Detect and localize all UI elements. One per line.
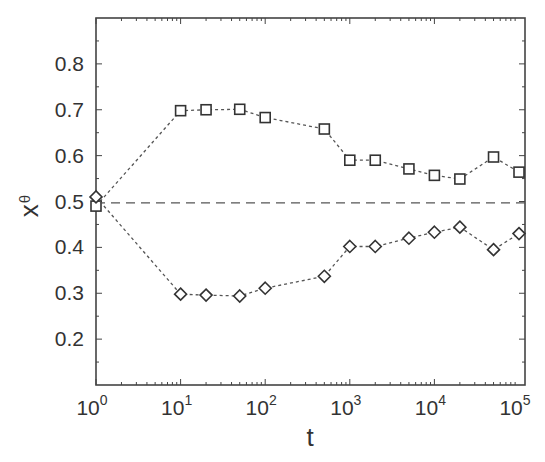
y-tick-label: 0.2 — [55, 327, 84, 350]
diamond-marker — [513, 228, 525, 240]
square-marker — [489, 152, 499, 162]
diamond-marker — [369, 240, 381, 252]
x-tick-label: 102 — [246, 392, 277, 419]
square-marker — [201, 105, 211, 115]
diamond-marker — [259, 282, 271, 294]
x-axis: 100101102103104105 — [76, 18, 530, 419]
y-tick-label: 0.8 — [55, 52, 84, 75]
x-tick-label: 100 — [76, 392, 107, 419]
x-tick-label: 101 — [161, 392, 192, 419]
square-marker — [345, 155, 355, 165]
diamond-marker — [234, 290, 246, 302]
square-marker — [429, 170, 439, 180]
chart: 0.20.30.40.50.60.70.8 100101102103104105… — [0, 0, 545, 462]
diamond-marker — [488, 244, 500, 256]
square-marker — [260, 113, 270, 123]
diamond-marker — [318, 270, 330, 282]
square-marker — [514, 167, 524, 177]
square-marker — [235, 104, 245, 114]
square-marker — [455, 174, 465, 184]
x-axis-title: t — [306, 422, 314, 452]
plot-area — [96, 18, 525, 385]
square-marker — [404, 164, 414, 174]
series-diamonds — [90, 191, 525, 302]
x-tick-label: 103 — [330, 392, 361, 419]
diamond-marker — [403, 232, 415, 244]
x-tick-label: 105 — [499, 392, 530, 419]
diamond-marker — [454, 221, 466, 233]
diamond-marker — [428, 226, 440, 238]
square-marker — [370, 155, 380, 165]
svg-text:xθ: xθ — [14, 195, 44, 217]
y-tick-label: 0.6 — [55, 144, 84, 167]
y-tick-label: 0.7 — [55, 98, 84, 121]
y-axis-title: xθ — [14, 195, 44, 217]
y-axis: 0.20.30.40.50.60.70.8 — [55, 41, 525, 362]
y-tick-label: 0.4 — [55, 235, 85, 258]
series-squares — [91, 104, 524, 211]
diamond-marker — [200, 289, 212, 301]
y-tick-label: 0.3 — [55, 281, 84, 304]
square-marker — [176, 106, 186, 116]
square-marker — [319, 124, 329, 134]
x-tick-label: 104 — [415, 392, 446, 419]
y-tick-label: 0.5 — [55, 190, 84, 213]
